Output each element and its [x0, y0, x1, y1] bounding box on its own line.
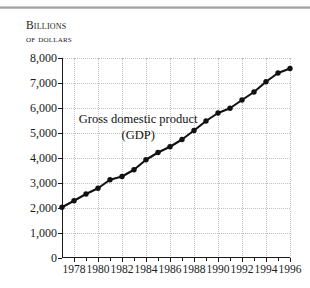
x-tick-mark [122, 258, 123, 262]
y-axis-title: Billions of dollars [26, 18, 72, 46]
x-tick-mark [218, 258, 219, 262]
data-point-marker [155, 150, 160, 155]
x-tick-label: 1994 [255, 263, 278, 275]
x-tick-mark [98, 258, 99, 262]
x-tick-label: 1984 [135, 263, 158, 275]
x-tick-label: 1982 [111, 263, 134, 275]
data-point-marker [203, 118, 208, 123]
y-tick-label: 1,000 [30, 226, 57, 241]
x-tick-label: 1988 [183, 263, 206, 275]
data-point-marker [167, 144, 172, 149]
x-tick-mark-minor [158, 258, 159, 261]
annotation-line-1: Gross domestic product [79, 112, 198, 128]
y-tick-label: 8,000 [30, 51, 57, 66]
y-tick-label: 3,000 [30, 176, 57, 191]
chart-figure: Billions of dollars 01,0002,0003,0004,00… [0, 0, 310, 288]
x-tick-mark-minor [230, 258, 231, 261]
y-tick-label: 5,000 [30, 126, 57, 141]
x-tick-label: 1992 [231, 263, 254, 275]
x-tick-mark [242, 258, 243, 262]
data-point-marker [143, 157, 148, 162]
series-annotation-gdp: Gross domestic product (GDP) [79, 112, 198, 143]
data-point-marker [59, 205, 64, 210]
data-point-marker [275, 70, 280, 75]
data-point-marker [227, 106, 232, 111]
x-tick-mark [266, 258, 267, 262]
x-tick-label: 1978 [63, 263, 86, 275]
x-tick-label: 1986 [159, 263, 182, 275]
x-tick-mark-minor [278, 258, 279, 261]
x-tick-mark-minor [206, 258, 207, 261]
x-tick-mark [74, 258, 75, 262]
plot-area: 01,0002,0003,0004,0005,0006,0007,0008,00… [62, 58, 290, 258]
x-tick-mark [170, 258, 171, 262]
data-point-marker [83, 191, 88, 196]
x-tick-mark-minor [110, 258, 111, 261]
y-axis-title-line-1: Billions [26, 18, 72, 32]
y-tick-label: 4,000 [30, 151, 57, 166]
data-point-marker [239, 97, 244, 102]
data-point-marker [251, 89, 256, 94]
x-tick-mark [194, 258, 195, 262]
top-divider-rule [0, 6, 310, 9]
x-tick-mark-minor [254, 258, 255, 261]
x-tick-label: 1980 [87, 263, 110, 275]
series-gdp [62, 58, 290, 258]
x-tick-mark [290, 258, 291, 262]
y-tick-label: 2,000 [30, 201, 57, 216]
y-axis-title-line-2: of dollars [26, 32, 72, 45]
y-tick-label: 0 [51, 251, 57, 266]
data-point-marker [263, 79, 268, 84]
x-tick-mark [146, 258, 147, 262]
data-point-marker [215, 110, 220, 115]
annotation-line-2: (GDP) [79, 128, 198, 144]
data-point-marker [287, 66, 292, 71]
x-tick-mark-minor [86, 258, 87, 261]
data-point-marker [95, 186, 100, 191]
data-point-marker [107, 177, 112, 182]
gridline-vertical [290, 58, 291, 258]
y-tick-mark [58, 258, 62, 259]
x-tick-mark-minor [182, 258, 183, 261]
x-tick-label: 1996 [279, 263, 302, 275]
y-tick-label: 6,000 [30, 101, 57, 116]
x-tick-mark-minor [134, 258, 135, 261]
data-point-marker [131, 167, 136, 172]
x-tick-label: 1990 [207, 263, 230, 275]
data-point-marker [119, 174, 124, 179]
data-point-marker [71, 198, 76, 203]
y-tick-label: 7,000 [30, 76, 57, 91]
